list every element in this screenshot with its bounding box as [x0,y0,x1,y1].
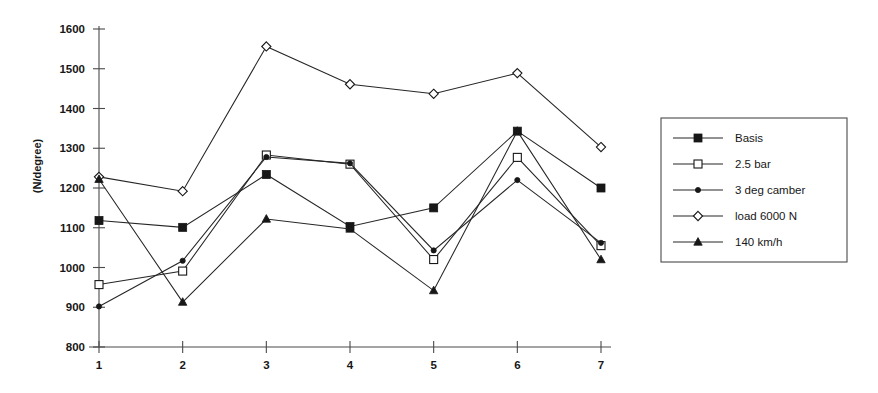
series-polyline [99,46,601,191]
data-point-marker [431,248,436,253]
data-point-marker [597,184,605,192]
chart-legend: Basis2.5 bar3 deg camberload 6000 N140 k… [661,118,847,262]
x-tick-label: 2 [179,359,185,371]
series-140-km-h [95,127,605,306]
x-axis: 1234567 [89,341,611,371]
data-point-marker [179,223,187,231]
data-point-marker [262,42,271,51]
series-polyline [99,131,601,302]
data-point-marker [429,286,437,294]
data-point-marker [95,281,103,289]
data-point-marker [429,89,438,98]
legend-item-label: load 6000 N [735,210,797,222]
y-tick-label: 1200 [59,182,85,194]
x-tick-label: 7 [598,359,604,371]
legend-item-label: Basis [735,132,763,144]
y-tick-label: 1400 [59,103,85,115]
data-point-marker [95,217,103,225]
y-axis-title-label: (N/degree) [31,138,43,193]
legend-item-label: 140 km/h [735,236,782,248]
y-axis-title: (N/degree) [31,138,43,193]
data-point-marker [178,187,187,196]
y-tick-label: 1300 [59,142,85,154]
y-tick-label: 900 [66,301,85,313]
x-tick-label: 5 [430,359,437,371]
data-point-marker [430,256,438,264]
x-tick-label: 6 [514,359,520,371]
legend-sample-marker [694,134,702,142]
legend-sample-marker [695,187,700,192]
series-polyline [99,131,601,227]
x-tick-label: 1 [96,359,103,371]
legend-sample-marker [694,160,702,168]
series-load-6000-n [94,42,605,196]
y-tick-label: 1600 [59,23,85,35]
legend-item-label: 2.5 bar [735,158,771,170]
data-point-marker [180,258,185,263]
series-container [94,42,605,309]
series-basis [95,127,605,231]
line-chart-figure: 8009001000110012001300140015001600 12345… [0,0,878,393]
data-point-marker [264,154,269,159]
data-point-marker [262,170,270,178]
data-point-marker [347,161,352,166]
y-axis: 8009001000110012001300140015001600 [59,23,105,353]
series-2-5-bar [95,151,605,289]
y-tick-label: 1500 [59,63,85,75]
x-tick-label: 3 [263,359,269,371]
y-tick-label: 800 [66,341,85,353]
legend-item-load-6000-n[interactable]: load 6000 N [673,210,797,222]
y-tick-label: 1100 [60,222,85,234]
legend-item-140-km-h[interactable]: 140 km/h [673,236,782,248]
legend-item-3-deg-camber[interactable]: 3 deg camber [673,184,805,196]
y-tick-label: 1000 [59,262,85,274]
x-tick-label: 4 [347,359,354,371]
data-point-marker [262,215,270,223]
data-point-marker [513,153,521,161]
legend-sample-marker [693,211,702,220]
legend-item-label: 3 deg camber [735,184,805,196]
legend-item-basis[interactable]: Basis [673,132,763,144]
data-point-marker [598,240,603,245]
data-point-marker [96,304,101,309]
legend-item-2-5-bar[interactable]: 2.5 bar [673,158,771,170]
legend-sample-marker [694,238,702,246]
data-point-marker [345,80,354,89]
chart-canvas: 8009001000110012001300140015001600 12345… [0,0,878,393]
data-point-marker [179,267,187,275]
data-point-marker [515,177,520,182]
data-point-marker [597,255,605,263]
data-point-marker [430,204,438,212]
